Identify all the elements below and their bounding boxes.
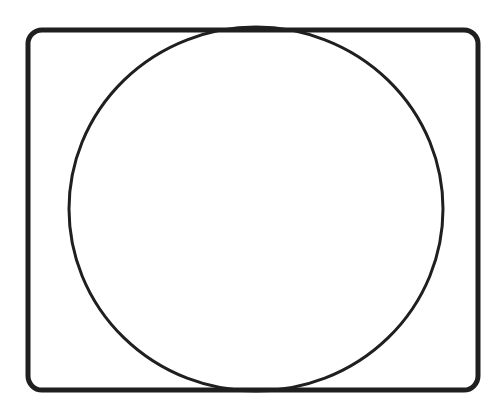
outer-rounded-rectangle xyxy=(28,30,478,390)
inscribed-circle xyxy=(69,27,443,391)
sketch-canvas xyxy=(0,0,502,413)
